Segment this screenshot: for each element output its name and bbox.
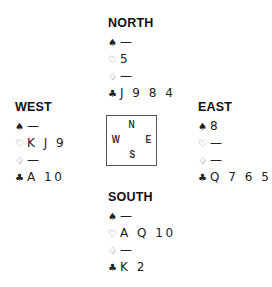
north-hand: NORTH ♠— ♡5 ♢— ♣J 9 8 4 bbox=[108, 16, 175, 102]
south-clubs-row: ♣K 2 bbox=[108, 259, 176, 276]
south-title: SOUTH bbox=[108, 190, 176, 204]
diamond-icon: ♢ bbox=[15, 152, 27, 169]
diamond-icon: ♢ bbox=[108, 68, 120, 85]
diamond-icon: ♢ bbox=[108, 242, 120, 259]
spade-icon: ♠ bbox=[108, 208, 120, 225]
west-diamonds-row: ♢— bbox=[15, 152, 66, 169]
west-diamonds: — bbox=[27, 153, 42, 167]
club-icon: ♣ bbox=[198, 169, 210, 186]
west-clubs: A 10 bbox=[27, 170, 64, 184]
north-hearts-row: ♡5 bbox=[108, 51, 175, 68]
east-hand: EAST ♠8 ♡— ♢— ♣Q 7 6 5 bbox=[198, 100, 271, 186]
south-hand: SOUTH ♠— ♡A Q 10 ♢— ♣K 2 bbox=[108, 190, 176, 276]
south-spades-row: ♠— bbox=[108, 208, 176, 225]
east-spades: 8 bbox=[210, 119, 220, 133]
club-icon: ♣ bbox=[108, 259, 120, 276]
east-hearts-row: ♡— bbox=[198, 135, 271, 152]
compass-west: W bbox=[112, 134, 120, 145]
compass-east: E bbox=[146, 134, 152, 145]
west-hearts-row: ♡K J 9 bbox=[15, 135, 66, 152]
spade-icon: ♠ bbox=[108, 34, 120, 51]
heart-icon: ♡ bbox=[198, 135, 210, 152]
south-diamonds-row: ♢— bbox=[108, 242, 176, 259]
north-spades-row: ♠— bbox=[108, 34, 175, 51]
north-diamonds-row: ♢— bbox=[108, 68, 175, 85]
south-hearts: A Q 10 bbox=[120, 226, 176, 240]
club-icon: ♣ bbox=[108, 85, 120, 102]
south-clubs: K 2 bbox=[120, 260, 147, 274]
east-spades-row: ♠8 bbox=[198, 118, 271, 135]
heart-icon: ♡ bbox=[108, 225, 120, 242]
heart-icon: ♡ bbox=[108, 51, 120, 68]
south-spades: — bbox=[120, 209, 135, 223]
north-title: NORTH bbox=[108, 16, 175, 30]
spade-icon: ♠ bbox=[15, 118, 27, 135]
diamond-icon: ♢ bbox=[198, 152, 210, 169]
north-hearts: 5 bbox=[120, 52, 130, 66]
west-spades: — bbox=[27, 119, 42, 133]
north-spades: — bbox=[120, 35, 135, 49]
heart-icon: ♡ bbox=[15, 135, 27, 152]
north-clubs: J 9 8 4 bbox=[120, 86, 175, 100]
south-diamonds: — bbox=[120, 243, 135, 257]
south-hearts-row: ♡A Q 10 bbox=[108, 225, 176, 242]
east-title: EAST bbox=[198, 100, 271, 114]
west-hand: WEST ♠— ♡K J 9 ♢— ♣A 10 bbox=[15, 100, 66, 186]
north-clubs-row: ♣J 9 8 4 bbox=[108, 85, 175, 102]
west-spades-row: ♠— bbox=[15, 118, 66, 135]
spade-icon: ♠ bbox=[198, 118, 210, 135]
compass-box: N W E S bbox=[106, 115, 157, 166]
compass-north: N bbox=[129, 119, 135, 130]
east-clubs-row: ♣Q 7 6 5 bbox=[198, 169, 271, 186]
west-hearts: K J 9 bbox=[27, 136, 66, 150]
compass-south: S bbox=[130, 149, 136, 160]
east-diamonds-row: ♢— bbox=[198, 152, 271, 169]
west-title: WEST bbox=[15, 100, 66, 114]
east-diamonds: — bbox=[210, 153, 225, 167]
club-icon: ♣ bbox=[15, 169, 27, 186]
east-clubs: Q 7 6 5 bbox=[210, 170, 271, 184]
north-diamonds: — bbox=[120, 69, 135, 83]
west-clubs-row: ♣A 10 bbox=[15, 169, 66, 186]
east-hearts: — bbox=[210, 136, 225, 150]
